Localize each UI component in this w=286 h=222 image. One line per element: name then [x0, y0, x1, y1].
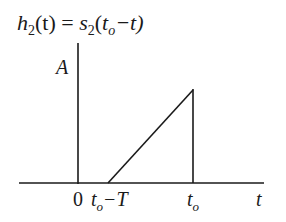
ramp-segment [108, 90, 193, 183]
tick-start-rest: −T [103, 188, 129, 210]
tick-label-end: to [187, 188, 200, 214]
eq-s-sub: 2 [88, 23, 95, 38]
eq-h: h [17, 10, 28, 35]
eq-lhs-arg: (t) = [35, 10, 79, 35]
eq-open: ( [95, 10, 102, 35]
time-axis-label: t [256, 188, 262, 210]
eq-t-sub: o [108, 23, 115, 38]
equation-title: h2(t) = s2(to−t) [17, 10, 143, 38]
tick-label-start: to−T [91, 188, 130, 214]
tick-label-zero: 0 [73, 188, 83, 210]
amplitude-label: A [54, 56, 69, 78]
diagram-canvas: h2(t) = s2(to−t) A t 0 to−T to [0, 0, 286, 222]
eq-minus-t: −t) [115, 10, 143, 35]
eq-s: s [79, 10, 88, 35]
eq-h-sub: 2 [28, 23, 35, 38]
tick-end-sub: o [193, 199, 200, 214]
